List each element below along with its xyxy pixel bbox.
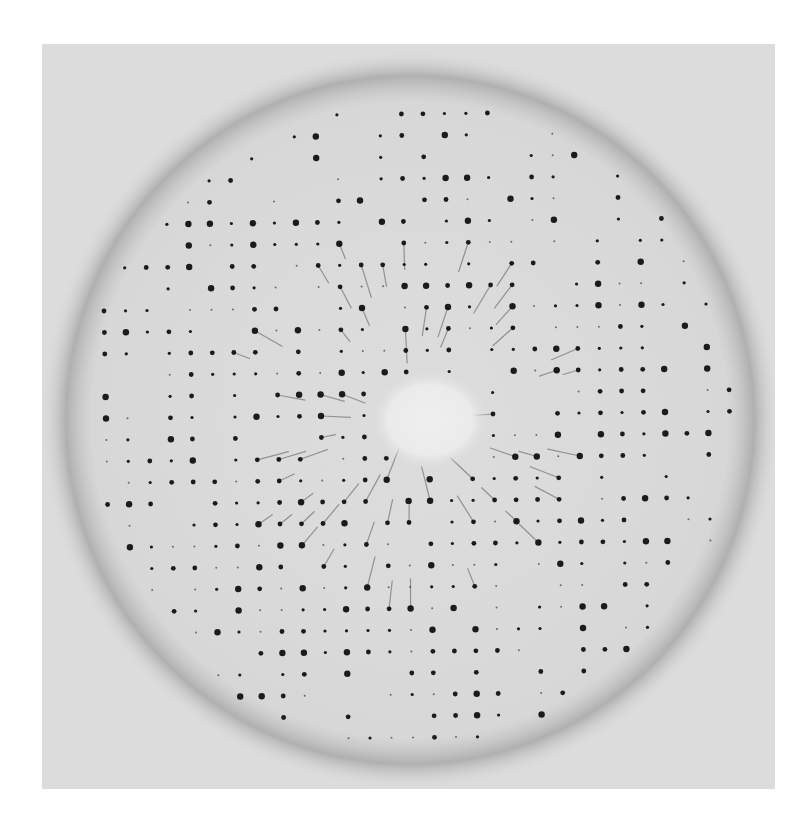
diffraction-pattern (42, 44, 775, 789)
diffraction-photograph (42, 44, 775, 789)
central-beam-hole (370, 370, 490, 470)
